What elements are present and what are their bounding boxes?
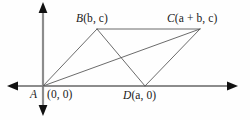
x-axis-left-arrow-icon <box>7 82 18 91</box>
vertex-label-C-coords: (a + b, c) <box>175 12 218 24</box>
vertex-label-D-coords: (a, 0) <box>131 89 156 101</box>
y-axis-down-arrow-icon <box>39 105 48 116</box>
vertex-label-B: B(b, c) <box>76 13 108 25</box>
y-axis-up-arrow-icon <box>39 2 48 13</box>
segment-side-DC <box>145 29 200 86</box>
vertex-label-A-name: A <box>30 88 37 100</box>
x-axis-right-arrow-icon <box>227 82 238 91</box>
vertex-label-C: C(a + b, c) <box>167 13 217 25</box>
vertex-label-A-coords-text: (0, 0) <box>47 88 73 100</box>
segment-side-AB <box>43 29 97 86</box>
vertex-label-A-coords: (0, 0) <box>47 89 73 101</box>
vertex-label-A: A <box>30 89 37 101</box>
vertex-label-D: D(a, 0) <box>123 90 156 102</box>
segment-diagonal-BD <box>97 29 145 86</box>
coordinate-geometry-figure: B(b, c) C(a + b, c) A (0, 0) D(a, 0) <box>0 0 250 120</box>
vertex-label-B-coords: (b, c) <box>83 12 108 24</box>
vertex-label-C-name: C <box>167 12 175 24</box>
parallelogram-shape <box>43 29 200 86</box>
